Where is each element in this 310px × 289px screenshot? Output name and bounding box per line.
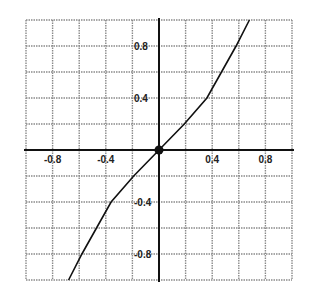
- y-tick-label: 0.4: [134, 93, 148, 104]
- x-tick-label: -0.4: [97, 154, 115, 165]
- origin-point: [155, 146, 164, 155]
- y-tick-label: -0.4: [134, 197, 152, 208]
- function-graph: -0.8-0.40.40.80.80.4-0.4-0.8: [0, 0, 310, 289]
- x-tick-label: 0.4: [205, 154, 219, 165]
- y-tick-label: 0.8: [134, 41, 148, 52]
- x-tick-label: 0.8: [258, 154, 272, 165]
- x-tick-label: -0.8: [44, 154, 62, 165]
- y-tick-label: -0.8: [134, 249, 152, 260]
